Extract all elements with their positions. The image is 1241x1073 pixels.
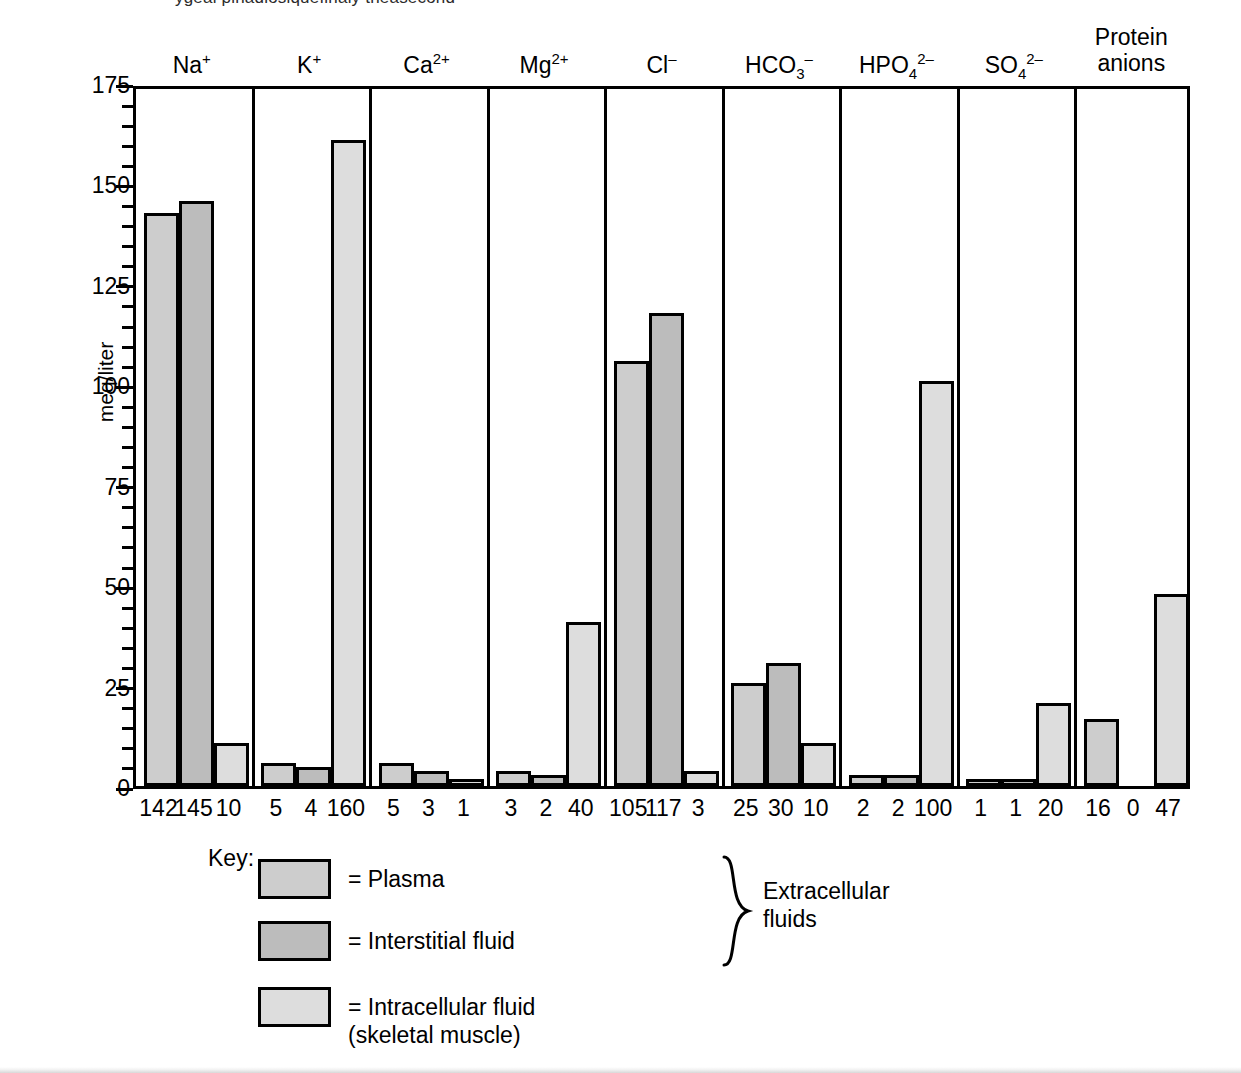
y-tick-minor <box>122 607 133 610</box>
bar-plasma-hpo42 <box>849 775 884 786</box>
y-tick-minor <box>122 165 133 168</box>
bar-plasma-mg2 <box>496 771 531 786</box>
bar-intracellular-mg2 <box>566 622 601 786</box>
bar-interstitial-hpo42 <box>884 775 919 786</box>
bar-interstitial-k <box>296 767 331 786</box>
legend-swatch-interstitial <box>258 921 331 961</box>
page-edge-strip <box>0 1067 1241 1073</box>
y-tick-minor <box>122 205 133 208</box>
legend-label-plasma: = Plasma <box>348 865 445 893</box>
bar-plasma-cl <box>614 361 649 786</box>
cropped-caption-remnant: ygeal pinadlosiquefinaly theasecond <box>0 0 1241 8</box>
y-tick-minor <box>122 125 133 128</box>
y-tick-minor <box>122 506 133 509</box>
bar-plasma-proteinanions <box>1084 719 1119 786</box>
y-tick-label: 0 <box>40 777 130 800</box>
group-divider <box>1074 89 1077 786</box>
legend: Key: = Plasma = Interstitial fluid = Int… <box>208 845 908 1035</box>
y-tick-minor <box>122 747 133 750</box>
legend-row-intracellular: = Intracellular fluid (skeletal muscle) <box>208 987 848 1031</box>
legend-label-intracellular: = Intracellular fluid (skeletal muscle) <box>348 993 535 1049</box>
group-divider <box>369 89 372 786</box>
bar-intracellular-cl <box>684 771 719 786</box>
y-tick-minor <box>122 245 133 248</box>
y-tick-minor <box>122 406 133 409</box>
y-tick-label: 50 <box>40 576 130 599</box>
y-tick-minor <box>122 767 133 770</box>
bar-intracellular-k <box>331 140 366 786</box>
group-divider <box>604 89 607 786</box>
bar-interstitial-so42 <box>1001 779 1036 786</box>
bar-interstitial-mg2 <box>531 775 566 786</box>
y-tick-minor <box>122 426 133 429</box>
bar-intracellular-hco3 <box>801 743 836 786</box>
bar-plasma-ca2 <box>379 763 414 786</box>
y-tick-minor <box>122 707 133 710</box>
y-tick-minor <box>122 305 133 308</box>
group-divider <box>839 89 842 786</box>
legend-swatch-intracellular <box>258 987 331 1027</box>
group-divider <box>487 89 490 786</box>
y-tick-minor <box>122 466 133 469</box>
y-tick-minor <box>122 526 133 529</box>
y-tick-minor <box>122 546 133 549</box>
y-tick-label: 125 <box>40 275 130 298</box>
group-divider <box>252 89 255 786</box>
legend-swatch-plasma <box>258 859 331 899</box>
y-tick-minor <box>122 667 133 670</box>
bar-interstitial-na <box>179 201 214 786</box>
plot-area <box>133 86 1190 789</box>
y-tick-minor <box>122 326 133 329</box>
y-tick-minor <box>122 627 133 630</box>
y-tick-minor <box>122 145 133 148</box>
bar-intracellular-na <box>214 743 249 786</box>
extracellular-fluids-label: Extracellular fluids <box>763 877 890 933</box>
bar-interstitial-cl <box>649 313 684 786</box>
electrolyte-composition-figure: ygeal pinadlosiquefinaly theasecond meq/… <box>0 0 1241 1073</box>
y-tick-minor <box>122 346 133 349</box>
bar-plasma-hco3 <box>731 683 766 786</box>
y-tick-minor <box>122 446 133 449</box>
value-label: 47 <box>1128 795 1208 821</box>
y-tick-label: 100 <box>40 375 130 398</box>
extracellular-brace-icon <box>718 855 758 967</box>
y-tick-minor <box>122 647 133 650</box>
bar-plasma-so42 <box>966 779 1001 786</box>
bar-plasma-na <box>144 213 179 786</box>
bar-intracellular-so42 <box>1036 703 1071 786</box>
y-tick-label: 75 <box>40 476 130 499</box>
bar-intracellular-ca2 <box>449 779 484 786</box>
y-tick-label: 25 <box>40 677 130 700</box>
bar-intracellular-proteinanions <box>1154 594 1189 786</box>
y-tick-minor <box>122 265 133 268</box>
cropped-caption-text: ygeal pinadlosiquefinaly theasecond <box>175 0 1241 6</box>
y-tick-minor <box>122 727 133 730</box>
legend-label-interstitial: = Interstitial fluid <box>348 927 515 955</box>
category-label-proteinanions: Proteinanions <box>1041 24 1221 76</box>
y-tick-label: 150 <box>40 174 130 197</box>
group-divider <box>957 89 960 786</box>
y-tick-minor <box>122 225 133 228</box>
group-divider <box>722 89 725 786</box>
bar-interstitial-ca2 <box>414 771 449 786</box>
y-tick-minor <box>122 567 133 570</box>
y-tick-minor <box>122 366 133 369</box>
y-tick-minor <box>122 105 133 108</box>
bar-plasma-k <box>261 763 296 786</box>
bar-intracellular-hpo42 <box>919 381 954 786</box>
bar-interstitial-hco3 <box>766 663 801 787</box>
